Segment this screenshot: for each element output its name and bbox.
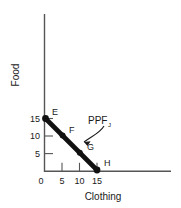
point-marker-H <box>94 167 101 174</box>
point-label-F: F <box>69 125 75 135</box>
y-axis-title: Food <box>10 64 21 87</box>
point-label-H: H <box>104 158 111 168</box>
point-marker-G <box>77 150 83 156</box>
point-marker-F <box>60 133 66 139</box>
x-tick-label-15: 15 <box>92 176 102 186</box>
plot-background <box>0 0 181 208</box>
ppf-plot: 15 10 5 0 5 10 15 E F G H PPF J Food Clo… <box>0 0 181 208</box>
point-label-G: G <box>87 142 94 152</box>
origin-label: 0 <box>38 176 43 186</box>
y-tick-label-10: 10 <box>30 131 40 141</box>
ppf-label-subscript: J <box>108 122 111 128</box>
ppf-chart-figure: 15 10 5 0 5 10 15 E F G H PPF J Food Clo… <box>0 0 181 208</box>
x-tick-label-10: 10 <box>74 176 84 186</box>
point-label-E: E <box>52 107 58 117</box>
point-marker-E <box>42 115 49 122</box>
y-tick-label-5: 5 <box>35 149 40 159</box>
y-tick-label-15: 15 <box>30 114 40 124</box>
x-axis-title: Clothing <box>85 191 122 202</box>
x-tick-label-5: 5 <box>59 176 64 186</box>
ppf-label: PPF <box>88 115 107 126</box>
